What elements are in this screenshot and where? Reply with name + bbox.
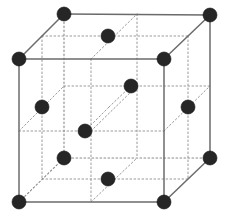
atom-corner-front-top-right [157,52,171,66]
center-diagonal-group [85,86,131,131]
atom-corner-front-top-left [12,52,26,66]
atom-corner-back-bottom-left [57,151,71,165]
atom-corner-back-bottom-right [203,151,217,165]
atom-corner-back-top-left [57,7,71,21]
atom-face-center-back [124,79,138,93]
lattice-diagram-canvas [0,0,227,220]
fcc-unit-cell-figure [0,0,227,220]
edge-connect-top-right [164,15,210,59]
edge-back-top [64,14,210,15]
atom-corner-back-top-right [203,8,217,22]
atom-corner-front-bottom-left [12,195,26,209]
atom-face-center-front [78,124,92,138]
atom-face-center-left [35,100,49,114]
atom-face-center-right [181,100,195,114]
atom-face-center-top [101,29,115,43]
atom-face-center-bottom [101,172,115,186]
edge-connect-bottom-right [164,158,210,202]
atom-corner-front-bottom-right [157,195,171,209]
